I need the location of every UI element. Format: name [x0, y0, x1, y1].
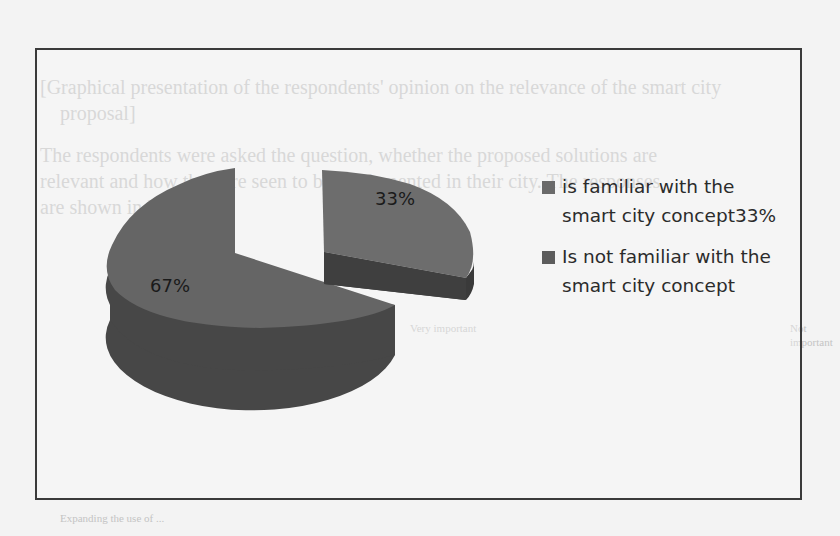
data-label-not-familiar: 67% — [150, 275, 190, 296]
legend-item-not-familiar[interactable]: Is not familiar with the smart city conc… — [538, 242, 788, 300]
legend-swatch-icon — [542, 251, 555, 264]
legend-swatch-icon — [542, 181, 555, 194]
data-label-familiar: 33% — [375, 188, 415, 209]
legend-label: is familiar with the smart city concept3… — [562, 176, 776, 226]
legend-item-familiar[interactable]: is familiar with the smart city concept3… — [538, 172, 788, 230]
chart-legend: is familiar with the smart city concept3… — [538, 172, 788, 312]
legend-label: Is not familiar with the smart city conc… — [562, 246, 771, 296]
